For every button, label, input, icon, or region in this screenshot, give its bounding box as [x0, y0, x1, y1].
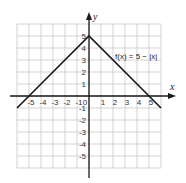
svg-text:-4: -4	[79, 140, 87, 149]
y-axis-label: y	[92, 11, 98, 22]
svg-text:-5: -5	[79, 152, 87, 161]
svg-text:2: 2	[82, 68, 87, 77]
svg-text:-3: -3	[51, 98, 59, 107]
function-label: f(x) = 5 − |x|	[115, 52, 157, 61]
svg-text:1: 1	[101, 98, 106, 107]
svg-text:2: 2	[113, 98, 118, 107]
svg-text:4: 4	[137, 98, 142, 107]
svg-text:1: 1	[82, 80, 87, 89]
coordinate-plane: -5-4-3-2-101234554321-1-2-3-4-5 f(x) = 5…	[0, 0, 186, 183]
svg-text:3: 3	[82, 56, 87, 65]
x-axis-label: x	[169, 81, 175, 92]
axes	[10, 12, 176, 178]
svg-text:-1: -1	[79, 104, 87, 113]
svg-text:-5: -5	[27, 98, 35, 107]
svg-text:3: 3	[125, 98, 130, 107]
svg-text:-2: -2	[63, 98, 71, 107]
svg-text:-2: -2	[79, 116, 87, 125]
svg-text:-3: -3	[79, 128, 87, 137]
svg-text:-4: -4	[39, 98, 47, 107]
svg-text:4: 4	[82, 44, 87, 53]
